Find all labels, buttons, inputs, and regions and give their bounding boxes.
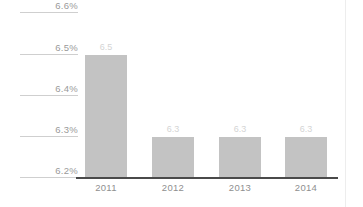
x-axis-line [76, 177, 338, 179]
bar-2011[interactable] [85, 55, 127, 177]
bar-chart: 6.6% 6.5% 6.4% 6.3% 6.2% 6.5 6.3 6.3 6.3 [0, 0, 363, 207]
y-axis-tick-label: 6.4% [14, 83, 78, 94]
bar-value-label-2013: 6.3 [219, 124, 261, 134]
bar-value-label-2012: 6.3 [152, 124, 194, 134]
bar-2012[interactable] [152, 137, 194, 177]
x-axis-label-2014: 2014 [285, 182, 327, 193]
bar-value-label-2014: 6.3 [285, 124, 327, 134]
y-axis-tick-stub [20, 136, 78, 137]
x-axis-label-2011: 2011 [85, 182, 127, 193]
x-axis-label-2013: 2013 [219, 182, 261, 193]
x-axis-label-2012: 2012 [152, 182, 194, 193]
plot-area: 6.6% 6.5% 6.4% 6.3% 6.2% 6.5 6.3 6.3 6.3 [0, 0, 363, 207]
y-axis-tick-label: 6.2% [14, 165, 78, 176]
y-axis-tick-stub [20, 177, 78, 178]
y-axis-tick-label: 6.6% [14, 0, 78, 11]
bar-2014[interactable] [285, 137, 327, 177]
y-axis-tick-stub [20, 95, 78, 96]
y-axis-tick-stub [20, 12, 78, 13]
y-axis-tick-label: 6.3% [14, 124, 78, 135]
y-axis-tick-stub [20, 54, 78, 55]
bar-value-label-2011: 6.5 [85, 42, 127, 52]
y-axis-tick-label: 6.5% [14, 42, 78, 53]
bar-2013[interactable] [219, 137, 261, 177]
